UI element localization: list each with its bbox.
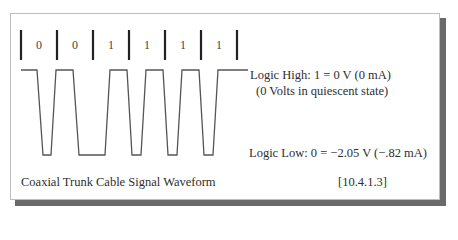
bit-dividers	[21, 30, 237, 60]
reference-number: [10.4.1.3]	[338, 175, 387, 190]
bit-label: 1	[173, 38, 193, 53]
signal-waveform	[21, 70, 248, 155]
logic-high-note: (0 Volts in quiescent state)	[256, 84, 388, 99]
bit-label: 1	[137, 38, 157, 53]
bit-label: 0	[65, 38, 85, 53]
logic-high-label: Logic High: 1 = 0 V (0 mA)	[250, 68, 391, 83]
bit-label: 1	[101, 38, 121, 53]
bit-label: 1	[209, 38, 229, 53]
bit-label: 0	[29, 38, 49, 53]
logic-low-label: Logic Low: 0 = −2.05 V (−.82 mA)	[249, 146, 427, 161]
diagram-title: Coaxial Trunk Cable Signal Waveform	[21, 175, 216, 190]
